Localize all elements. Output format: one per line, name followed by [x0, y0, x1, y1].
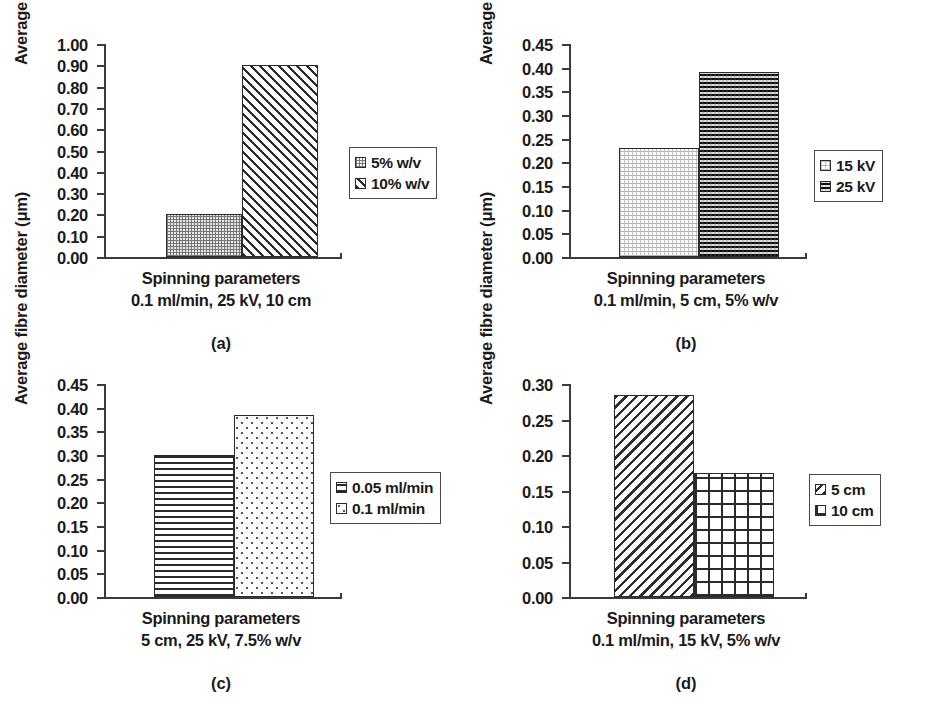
y-tick-label: 0.40: [57, 163, 88, 182]
y-tick-label: 0.40: [522, 59, 553, 78]
legend-swatch-icon: [815, 505, 826, 516]
y-tick-mark: [97, 108, 104, 110]
legend-label: 5% w/v: [371, 154, 421, 172]
y-tick-label: 0.35: [57, 423, 88, 442]
legend-item-a-2[interactable]: 10% w/v: [355, 173, 429, 194]
y-tick-label: 0.10: [57, 227, 88, 246]
y-tick-label: 0.50: [57, 142, 88, 161]
legend-label: 15 kV: [836, 157, 875, 175]
legend-swatch-icon: [815, 484, 826, 495]
legend-label: 10% w/v: [371, 175, 429, 193]
y-tick-label: 0.25: [57, 470, 88, 489]
legend-item-c-1[interactable]: 0.05 ml/min: [336, 477, 433, 498]
y-tick-mark: [562, 597, 569, 599]
legend-swatch-icon: [336, 503, 347, 514]
y-tick-mark: [562, 162, 569, 164]
y-tick-mark: [97, 408, 104, 410]
x-axis-endcap-a: [340, 253, 342, 259]
y-tick-mark: [97, 384, 104, 386]
y-tick-label: 0.30: [522, 376, 553, 395]
y-tick-label: 0.45: [522, 36, 553, 55]
bar-d-1: [614, 395, 694, 597]
y-tick-mark: [97, 257, 104, 259]
x-axis-caption-b: Spinning parameters 0.1 ml/min, 5 cm, 5%…: [561, 268, 811, 312]
chart-panel-c: Average fibre diameter (μm) 0.000.050.10…: [0, 362, 465, 714]
y-tick-mark: [97, 193, 104, 195]
y-axis-line-a: [104, 44, 106, 259]
y-tick-mark: [97, 597, 104, 599]
panel-letter-d: (d): [561, 674, 811, 693]
y-tick-mark: [562, 384, 569, 386]
y-tick-mark: [562, 491, 569, 493]
y-tick-mark: [562, 115, 569, 117]
y-tick-label: 0.10: [522, 518, 553, 537]
y-tick-label: 0.45: [57, 376, 88, 395]
bar-c-2: [234, 415, 314, 597]
x-axis-caption-line2-a: 0.1 ml/min, 25 kV, 10 cm: [96, 290, 346, 312]
panel-letter-a: (a): [96, 334, 346, 353]
y-tick-mark: [562, 139, 569, 141]
x-axis-caption-a: Spinning parameters 0.1 ml/min, 25 kV, 1…: [96, 268, 346, 312]
y-tick-label: 0.20: [57, 206, 88, 225]
y-tick-label: 0.20: [522, 447, 553, 466]
y-tick-label: 0.15: [522, 482, 553, 501]
x-axis-caption-line2-b: 0.1 ml/min, 5 cm, 5% w/v: [561, 290, 811, 312]
y-tick-label: 0.90: [57, 57, 88, 76]
bar-a-2: [242, 65, 318, 257]
legend-item-b-1[interactable]: 15 kV: [820, 155, 875, 176]
y-tick-label: 0.00: [57, 589, 88, 608]
y-tick-label: 0.40: [57, 399, 88, 418]
y-tick-mark: [562, 44, 569, 46]
y-tick-mark: [97, 479, 104, 481]
bar-b-2: [699, 72, 779, 257]
y-tick-mark: [97, 526, 104, 528]
y-axis-label-c: Average fibre diameter (μm): [8, 191, 34, 406]
legend-c[interactable]: 0.05 ml/min0.1 ml/min: [330, 472, 441, 524]
y-tick-label: 0.10: [522, 201, 553, 220]
legend-swatch-icon: [355, 178, 366, 189]
bar-b-1: [619, 148, 699, 257]
y-tick-mark: [562, 420, 569, 422]
x-axis-line-a: [104, 257, 342, 259]
x-axis-endcap-b: [805, 253, 807, 259]
plot-area-c: 0.000.050.100.150.200.250.300.350.400.45: [104, 384, 334, 599]
legend-item-d-1[interactable]: 5 cm: [815, 479, 873, 500]
y-tick-mark: [97, 573, 104, 575]
y-tick-label: 0.25: [522, 411, 553, 430]
legend-label: 5 cm: [831, 481, 865, 499]
y-tick-mark: [562, 210, 569, 212]
y-tick-label: 0.00: [57, 249, 88, 268]
y-tick-label: 0.20: [57, 494, 88, 513]
x-axis-endcap-c: [340, 593, 342, 599]
y-tick-label: 0.30: [57, 447, 88, 466]
y-tick-label: 0.00: [522, 249, 553, 268]
chart-panel-d: Average fibre diameter (μm) 0.000.050.10…: [465, 362, 930, 714]
legend-item-c-2[interactable]: 0.1 ml/min: [336, 498, 433, 519]
y-tick-mark: [97, 236, 104, 238]
legend-item-b-2[interactable]: 25 kV: [820, 176, 875, 197]
y-tick-mark: [97, 87, 104, 89]
legend-item-d-2[interactable]: 10 cm: [815, 500, 873, 521]
legend-d[interactable]: 5 cm10 cm: [809, 474, 881, 526]
y-tick-label: 0.25: [522, 130, 553, 149]
chart-panel-b: Average fibre diameter (μm) 0.000.050.10…: [465, 22, 930, 374]
legend-swatch-icon: [336, 482, 347, 493]
y-axis-label-d: Average fibre diameter (μm): [473, 191, 499, 406]
x-axis-caption-c: Spinning parameters 5 cm, 25 kV, 7.5% w/…: [96, 608, 346, 652]
y-tick-label: 0.35: [522, 83, 553, 102]
legend-swatch-icon: [355, 157, 366, 168]
legend-item-a-1[interactable]: 5% w/v: [355, 152, 429, 173]
y-tick-mark: [97, 431, 104, 433]
plot-area-b: 0.000.050.100.150.200.250.300.350.400.45: [569, 44, 799, 259]
y-axis-label-b: Average fibre diameter (μm): [473, 0, 499, 66]
x-axis-caption-d: Spinning parameters 0.1 ml/min, 15 kV, 5…: [561, 608, 811, 652]
y-tick-mark: [562, 526, 569, 528]
chart-panel-a: Average fibre diameter (μm) 0.000.100.20…: [0, 22, 465, 374]
y-tick-mark: [562, 233, 569, 235]
y-tick-mark: [562, 257, 569, 259]
legend-a[interactable]: 5% w/v10% w/v: [349, 147, 437, 199]
x-axis-caption-line2-c: 5 cm, 25 kV, 7.5% w/v: [96, 630, 346, 652]
plot-area-d: 0.000.050.100.150.200.250.30: [569, 384, 799, 599]
y-tick-label: 0.30: [57, 185, 88, 204]
legend-b[interactable]: 15 kV25 kV: [814, 150, 883, 202]
